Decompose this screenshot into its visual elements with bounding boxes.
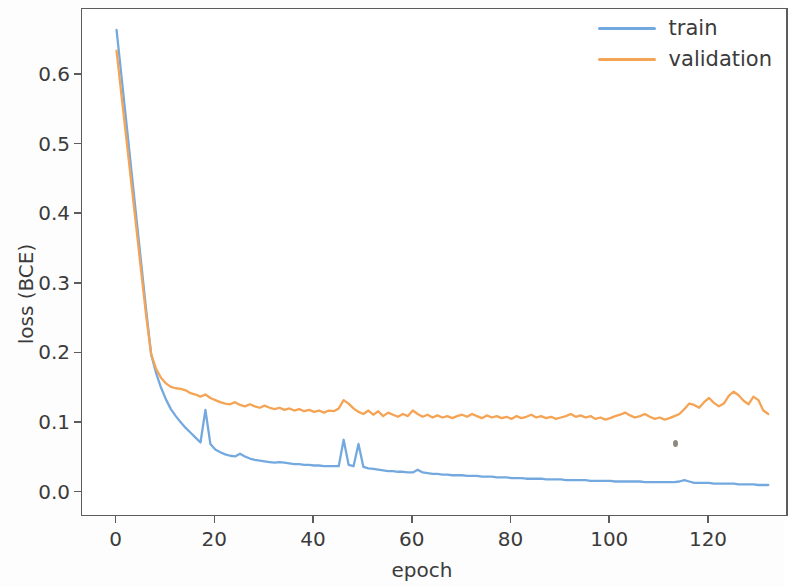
legend: train validation [590,14,780,74]
x-tick-mark [510,516,512,523]
series-canvas [82,9,787,516]
y-tick-mark [74,421,81,423]
x-tick-mark [608,516,610,523]
y-tick-label: 0.1 [38,410,70,434]
y-tick-mark [74,282,81,284]
x-tick-label: 100 [590,527,628,551]
y-tick-mark [74,212,81,214]
x-tick-mark [411,516,413,523]
x-tick-mark [707,516,709,523]
plot-area [81,8,787,516]
legend-label-train: train [669,18,718,39]
y-tick-label: 0.6 [38,62,70,86]
x-tick-label: 60 [399,527,424,551]
x-tick-mark [312,516,314,523]
x-tick-mark [115,516,117,523]
y-tick-mark [74,491,81,493]
legend-label-validation: validation [669,49,772,70]
y-tick-mark [74,73,81,75]
y-axis-label: loss (BCE) [14,184,38,404]
y-tick-label: 0.3 [38,271,70,295]
legend-entry-train: train [598,18,772,39]
y-tick-label: 0.4 [38,201,70,225]
legend-swatch-train [598,27,656,30]
y-tick-mark [74,352,81,354]
x-axis-label: epoch [0,558,784,582]
series-line-validation [117,51,769,420]
y-tick-label: 0.0 [38,480,70,504]
x-tick-label: 0 [109,527,122,551]
x-tick-label: 20 [202,527,227,551]
y-tick-mark [74,143,81,145]
y-tick-label: 0.2 [38,340,70,364]
legend-swatch-validation [598,58,656,61]
x-tick-label: 80 [498,527,523,551]
plot-right-border [786,8,788,516]
x-tick-mark [214,516,216,523]
x-tick-label: 40 [300,527,325,551]
legend-entry-validation: validation [598,49,772,70]
y-tick-label: 0.5 [38,132,70,156]
scan-artifact-speck [673,440,678,447]
x-tick-label: 120 [689,527,727,551]
